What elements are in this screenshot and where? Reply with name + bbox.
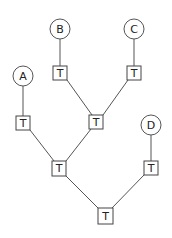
edge-tBC-tABC	[66, 129, 91, 161]
t-label-BC: T	[92, 116, 100, 129]
edge-tC-tBC	[103, 80, 128, 115]
edge-tA-tABC	[30, 130, 54, 161]
node-tBC: T	[89, 115, 103, 129]
node-tA: T	[16, 116, 30, 130]
edges	[23, 39, 151, 208]
t-label-D: T	[147, 162, 155, 175]
node-tABC: T	[52, 161, 66, 176]
leaf-A: A	[13, 66, 33, 86]
leaf-B: B	[50, 19, 70, 39]
edge-tD-root	[112, 175, 144, 208]
leaf-C: C	[124, 19, 144, 39]
edge-tABC-root	[66, 176, 98, 208]
node-tC: T	[127, 66, 141, 80]
leaf-label-B: B	[56, 23, 64, 36]
t-label-ABC: T	[55, 162, 63, 175]
t-label-B: T	[56, 67, 64, 80]
tree-diagram: A B C D T T T T T T T	[0, 0, 172, 238]
leaf-label-D: D	[147, 119, 155, 132]
t-label-root: T	[101, 210, 109, 223]
leaf-D: D	[141, 115, 161, 135]
t-label-C: T	[130, 67, 138, 80]
node-root: T	[98, 208, 113, 224]
node-tD: T	[144, 161, 158, 175]
leaf-label-C: C	[130, 23, 138, 36]
t-label-A: T	[19, 117, 27, 130]
node-tB: T	[53, 66, 67, 80]
leaf-label-A: A	[19, 70, 27, 83]
edge-tB-tBC	[67, 80, 92, 115]
